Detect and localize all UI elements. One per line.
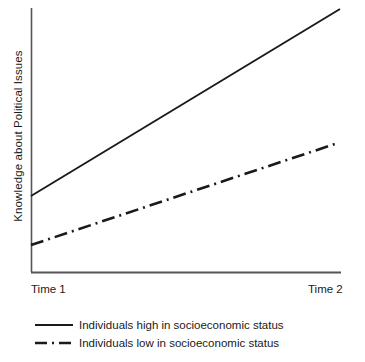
legend-item-high-ses: Individuals high in socioeconomic status bbox=[0, 316, 365, 334]
plot-area bbox=[0, 0, 365, 310]
x-tick-label-time-2: Time 2 bbox=[308, 283, 343, 295]
legend-swatch-solid-line-icon bbox=[35, 318, 73, 332]
legend-label-high-ses: Individuals high in socioeconomic status bbox=[79, 319, 284, 331]
series-line-low-ses bbox=[31, 143, 338, 245]
legend-item-low-ses: Individuals low in socioeconomic status bbox=[0, 334, 365, 352]
legend-swatch-dash-dot-line-icon bbox=[35, 336, 73, 350]
legend-label-low-ses: Individuals low in socioeconomic status bbox=[79, 337, 279, 349]
chart-legend: Individuals high in socioeconomic status… bbox=[0, 316, 365, 352]
chart-figure: Knowledge about Political Issues Time 1 … bbox=[0, 0, 365, 362]
x-tick-label-time-1: Time 1 bbox=[31, 283, 66, 295]
series-line-high-ses bbox=[31, 9, 340, 196]
